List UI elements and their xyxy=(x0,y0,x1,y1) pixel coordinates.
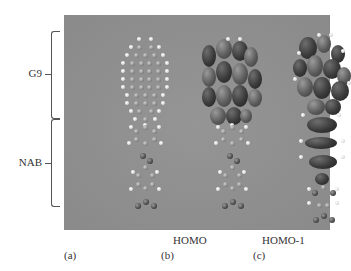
atom xyxy=(157,125,161,129)
orbital-lobe xyxy=(293,59,307,77)
atom xyxy=(221,129,226,134)
orbital-lobe xyxy=(202,87,216,107)
atom xyxy=(150,182,155,187)
atom xyxy=(137,37,141,41)
atom xyxy=(156,61,161,66)
atom xyxy=(335,201,339,205)
atom xyxy=(237,182,242,187)
atom xyxy=(313,217,319,223)
atom xyxy=(246,141,250,145)
panel-label-a: (a) xyxy=(64,249,76,261)
atom xyxy=(152,53,157,58)
atom xyxy=(121,77,125,81)
orbital-lobe xyxy=(307,117,337,133)
atom xyxy=(307,201,311,205)
atom xyxy=(347,81,351,85)
nab-bracket-tick xyxy=(45,163,51,164)
atom xyxy=(130,77,135,82)
atom xyxy=(157,45,161,49)
atom xyxy=(143,117,148,122)
atom xyxy=(165,77,169,81)
orbital-lobe xyxy=(202,45,216,67)
atom xyxy=(149,37,153,41)
atom xyxy=(214,141,218,145)
atom xyxy=(216,125,220,129)
orbital-lobe xyxy=(315,173,329,185)
atom xyxy=(157,109,161,113)
panel-label-c: (c) xyxy=(253,249,265,261)
atom xyxy=(223,173,228,178)
atom xyxy=(125,101,129,105)
atom xyxy=(147,69,152,74)
atom xyxy=(165,85,169,89)
atom xyxy=(143,141,148,146)
atom xyxy=(321,213,327,219)
atom xyxy=(139,61,144,66)
atom xyxy=(301,113,305,117)
atom xyxy=(143,186,148,191)
orbital-lobe xyxy=(210,107,226,125)
atom xyxy=(317,203,322,208)
atom xyxy=(149,109,154,114)
atom xyxy=(307,187,311,191)
atom xyxy=(238,37,242,41)
atom xyxy=(147,77,152,82)
atom xyxy=(230,186,235,191)
atom xyxy=(299,155,303,159)
atom xyxy=(152,137,157,142)
atom xyxy=(155,170,159,174)
atom xyxy=(341,155,345,159)
atom xyxy=(134,129,139,134)
atom xyxy=(125,53,129,57)
atom xyxy=(226,37,230,41)
atom xyxy=(130,61,135,66)
atom xyxy=(153,117,157,121)
atom xyxy=(121,85,125,89)
atom xyxy=(242,170,246,174)
atom xyxy=(216,187,220,191)
atom xyxy=(159,141,163,145)
atom xyxy=(218,170,222,174)
atom xyxy=(121,61,125,65)
atom xyxy=(161,53,165,57)
atom xyxy=(156,69,161,74)
atom xyxy=(335,187,339,191)
atom xyxy=(239,129,244,134)
atom xyxy=(325,203,330,208)
atom xyxy=(341,139,345,143)
orbital-lobe xyxy=(202,67,216,87)
orbital-lobe xyxy=(240,109,252,123)
atom xyxy=(312,190,318,196)
atom xyxy=(130,85,135,90)
atom xyxy=(317,33,321,37)
panel-background xyxy=(64,15,330,230)
atom xyxy=(230,141,235,146)
orbital-lobe xyxy=(248,69,262,89)
orbital-lobe xyxy=(317,35,331,53)
atom xyxy=(129,109,133,113)
orbital-lobe xyxy=(232,85,248,107)
atom xyxy=(329,33,333,37)
nab-bracket xyxy=(51,119,60,207)
orbital-lobe xyxy=(313,77,331,99)
atom xyxy=(230,165,235,170)
atom xyxy=(230,199,236,205)
orbital-lobe xyxy=(309,155,337,169)
atom xyxy=(137,109,142,114)
atom xyxy=(143,199,149,205)
atom xyxy=(129,125,133,129)
atom xyxy=(133,117,137,121)
orbital-lobe xyxy=(248,89,262,107)
atom xyxy=(143,125,148,130)
homo-label: HOMO xyxy=(173,234,207,246)
atom xyxy=(135,203,141,209)
atom xyxy=(129,187,133,191)
atom xyxy=(221,137,226,142)
atom xyxy=(136,182,141,187)
g9-bracket xyxy=(51,31,60,119)
atom xyxy=(139,69,144,74)
atom xyxy=(299,139,303,143)
atom xyxy=(137,45,142,50)
atom xyxy=(143,93,148,98)
atom xyxy=(125,93,129,97)
